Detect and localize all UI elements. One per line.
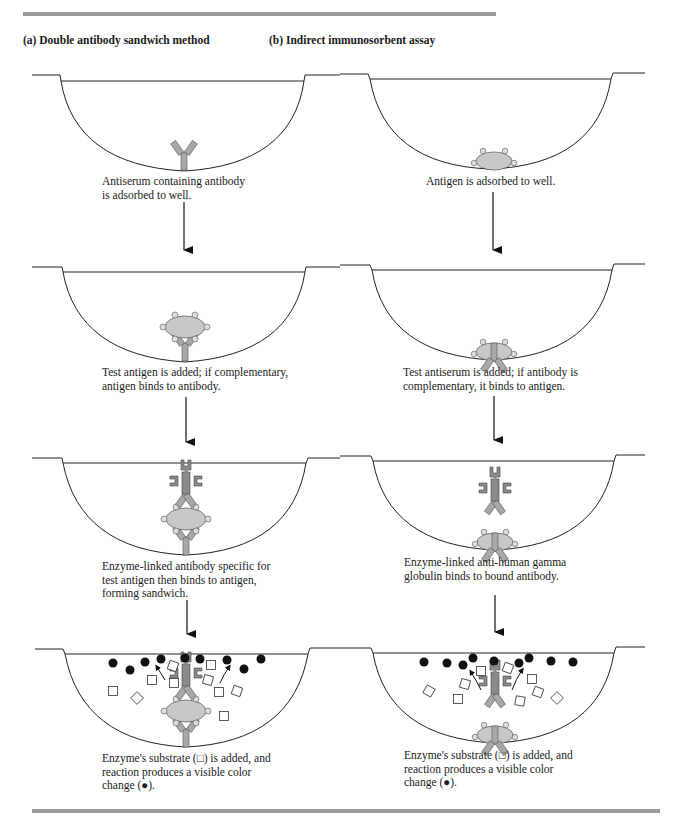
antigen-icon [160,312,210,342]
antibody-icon [171,140,198,170]
caption-a-step4: Enzyme's substrate (□) is added, and rea… [102,752,271,793]
well-a1 [32,75,340,250]
caption-b-step4: Enzyme's substrate (□) is added, and rea… [404,749,573,790]
caption-a-step1: Antiserum containing antibody is adsorbe… [102,175,245,202]
diagram-canvas [0,0,682,834]
caption-b-step2: Test antiserum is added; if antibody is … [403,366,578,393]
well-a2 [32,267,340,442]
well-b4 [340,647,645,756]
caption-b-step1: Antigen is adsorbed to well. [426,175,555,189]
well-b1 [340,73,645,250]
bottom-rule [32,809,660,813]
caption-a-step2: Test antigen is added; if complementary,… [102,366,288,393]
well-a3 [32,458,340,634]
enzyme-linked-antibody-icon [170,460,202,508]
caption-a-step3: Enzyme-linked antibody specific for test… [102,560,270,601]
well-b2 [340,264,645,440]
caption-b-step3: Enzyme-linked anti-human gamma globulin … [404,556,566,583]
well-b3 [340,455,645,632]
well-a4 [35,648,340,747]
